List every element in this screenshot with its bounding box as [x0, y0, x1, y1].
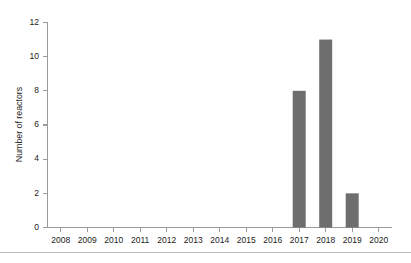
- x-tick-label-2017: 2017: [290, 235, 309, 245]
- y-tick-label-4: 4: [34, 153, 39, 163]
- y-axis-title: Number of reactors: [14, 86, 24, 162]
- y-tick-label-6: 6: [34, 119, 39, 129]
- y-tick-label-2: 2: [34, 188, 39, 198]
- bar-2017: [293, 91, 306, 228]
- x-tick-label-2018: 2018: [316, 235, 335, 245]
- chart-canvas: 0 2 4 6 8 10 12 Number of reactors 2008 …: [0, 0, 411, 263]
- footer-rule: [0, 252, 411, 253]
- x-tick-label-2020: 2020: [369, 235, 388, 245]
- y-tick-label-12: 12: [30, 17, 40, 27]
- bar-chart-figure: 0 2 4 6 8 10 12 Number of reactors 2008 …: [0, 0, 411, 263]
- x-tick-label-2010: 2010: [104, 235, 123, 245]
- x-tick-label-2019: 2019: [343, 235, 362, 245]
- y-tick-marks: [43, 23, 48, 228]
- x-tick-label-2013: 2013: [184, 235, 203, 245]
- bars-group: [293, 40, 359, 228]
- x-tick-label-2014: 2014: [210, 235, 229, 245]
- x-tick-label-2009: 2009: [78, 235, 97, 245]
- x-tick-label-2015: 2015: [237, 235, 256, 245]
- x-tick-marks: [61, 228, 379, 233]
- x-tick-label-2011: 2011: [131, 235, 150, 245]
- x-tick-label-2012: 2012: [157, 235, 176, 245]
- bar-2018: [319, 40, 332, 228]
- x-tick-label-2016: 2016: [263, 235, 282, 245]
- y-tick-label-0: 0: [34, 222, 39, 232]
- x-tick-label-2008: 2008: [51, 235, 70, 245]
- y-tick-label-10: 10: [30, 51, 40, 61]
- bar-2019: [346, 193, 359, 227]
- y-tick-label-8: 8: [34, 85, 39, 95]
